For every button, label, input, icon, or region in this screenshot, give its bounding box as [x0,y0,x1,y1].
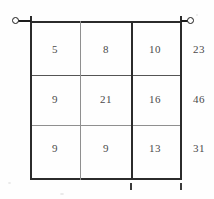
bottom-tick-mark [130,183,132,190]
figure-canvas: 5 8 10 9 21 16 9 9 13 23 46 31 [0,0,214,199]
top-right-circle-marker [187,17,194,24]
grid-col-divider-1 [80,21,81,180]
row-total: 23 [186,43,212,55]
table-cell: 9 [42,93,68,105]
scan-speckle [8,182,11,184]
grid-col-divider-2 [131,21,133,180]
table-cell: 13 [142,142,168,154]
scan-speckle [196,14,198,16]
grid-top-border [30,21,182,23]
row-total: 46 [186,93,212,105]
top-left-circle-marker [12,17,19,24]
grid-row-divider-2 [30,125,182,126]
table-cell: 5 [42,43,68,55]
scan-speckle [60,193,64,195]
table-cell: 8 [93,43,119,55]
table-cell: 21 [93,93,119,105]
table-cell: 10 [142,43,168,55]
left-marker-stem [18,20,31,22]
table-cell: 16 [142,93,168,105]
grid-left-border [30,16,32,180]
bottom-tick-mark [180,183,182,190]
grid-right-border [180,16,182,180]
row-total: 31 [186,142,212,154]
table-cell: 9 [93,142,119,154]
grid-row-divider-1 [30,75,182,76]
table-cell: 9 [42,142,68,154]
contingency-table-grid: 5 8 10 9 21 16 9 9 13 [30,21,182,180]
grid-bottom-border [30,178,182,180]
